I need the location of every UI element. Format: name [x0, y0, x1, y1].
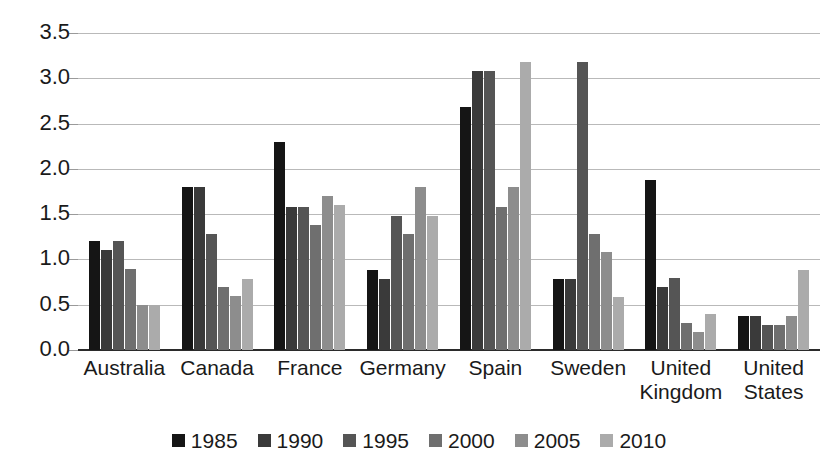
y-tick-label-1.5: 1.5: [14, 202, 70, 224]
bar: [274, 142, 285, 350]
bar: [415, 187, 426, 350]
bar: [379, 279, 390, 350]
y-tick-mark: [69, 33, 78, 34]
y-tick-mark: [69, 305, 78, 306]
bar: [601, 252, 612, 350]
legend-swatch-icon: [429, 434, 442, 447]
legend-swatch-icon: [600, 434, 613, 447]
bar: [101, 250, 112, 350]
legend-label: 1990: [277, 430, 324, 451]
legend-label: 1985: [191, 430, 238, 451]
legend-label: 2005: [534, 430, 581, 451]
bar: [565, 279, 576, 350]
y-tick-label-2.0: 2.0: [14, 157, 70, 179]
bar: [472, 71, 483, 350]
bar: [705, 314, 716, 350]
bar: [484, 71, 495, 350]
bar: [322, 196, 333, 350]
y-tick-mark: [69, 259, 78, 260]
y-tick-label-2.5: 2.5: [14, 112, 70, 134]
bar-group: [553, 33, 624, 350]
legend-swatch-icon: [172, 434, 185, 447]
x-axis-labels: AustraliaCanadaFranceGermanySpainSwedenU…: [78, 356, 820, 418]
bar-group: [738, 33, 809, 350]
bar: [403, 234, 414, 350]
bar: [286, 207, 297, 350]
bar: [242, 279, 253, 350]
bar: [520, 62, 531, 350]
x-axis-label: United Kingdom: [635, 356, 728, 403]
y-tick-label-0.0: 0.0: [14, 338, 70, 360]
y-tick-label-1.0: 1.0: [14, 247, 70, 269]
bar: [137, 305, 148, 350]
bar: [762, 325, 773, 350]
legend-item-2010[interactable]: 2010: [600, 430, 666, 451]
x-axis-label: Australia: [78, 356, 171, 380]
legend-swatch-icon: [258, 434, 271, 447]
y-tick-mark: [69, 124, 78, 125]
bar: [613, 297, 624, 350]
bar: [738, 316, 749, 350]
legend-label: 2000: [448, 430, 495, 451]
bar: [798, 270, 809, 350]
bar: [460, 107, 471, 350]
y-tick-label-3.5: 3.5: [14, 21, 70, 43]
bar: [589, 234, 600, 350]
plot-area: [78, 33, 820, 350]
legend-item-1985[interactable]: 1985: [172, 430, 238, 451]
x-axis-label: Germany: [356, 356, 449, 380]
y-tick-mark: [69, 350, 78, 351]
bar: [194, 187, 205, 350]
bar: [310, 225, 321, 350]
legend-item-1990[interactable]: 1990: [258, 430, 324, 451]
y-tick-mark: [69, 214, 78, 215]
bar: [149, 305, 160, 350]
bar: [774, 325, 785, 350]
bar: [89, 241, 100, 350]
legend-item-2005[interactable]: 2005: [515, 430, 581, 451]
y-tick-mark: [69, 78, 78, 79]
x-axis-label: United States: [727, 356, 820, 403]
bar: [645, 180, 656, 350]
y-tick-label-0.5: 0.5: [14, 293, 70, 315]
bar: [113, 241, 124, 350]
bar: [218, 287, 229, 350]
bar: [681, 323, 692, 350]
bar-group: [89, 33, 160, 350]
bar: [577, 62, 588, 350]
bar: [230, 296, 241, 350]
bar: [391, 216, 402, 350]
y-tick-mark: [69, 169, 78, 170]
bar: [693, 332, 704, 350]
bar: [669, 278, 680, 350]
x-axis-label: Sweden: [542, 356, 635, 380]
bar: [496, 207, 507, 350]
bar-group: [182, 33, 253, 350]
legend-swatch-icon: [515, 434, 528, 447]
y-tick-label-3.0: 3.0: [14, 66, 70, 88]
bar: [367, 270, 378, 350]
x-axis-label: Spain: [449, 356, 542, 380]
bar: [298, 207, 309, 350]
bar: [427, 216, 438, 350]
bar: [786, 316, 797, 350]
bars-layer: [78, 33, 820, 350]
bar: [334, 205, 345, 350]
bar: [508, 187, 519, 350]
x-axis-label: Canada: [171, 356, 264, 380]
chart-legend: 198519901995200020052010: [0, 430, 838, 451]
legend-item-1995[interactable]: 1995: [343, 430, 409, 451]
bar-chart: AustraliaCanadaFranceGermanySpainSwedenU…: [0, 0, 838, 471]
legend-label: 2010: [619, 430, 666, 451]
bar-group: [645, 33, 716, 350]
legend-label: 1995: [362, 430, 409, 451]
x-axis-label: France: [264, 356, 357, 380]
bar-group: [274, 33, 345, 350]
bar: [125, 269, 136, 351]
bar: [182, 187, 193, 350]
bar: [553, 279, 564, 350]
bar-group: [367, 33, 438, 350]
legend-item-2000[interactable]: 2000: [429, 430, 495, 451]
legend-swatch-icon: [343, 434, 356, 447]
bar: [206, 234, 217, 350]
